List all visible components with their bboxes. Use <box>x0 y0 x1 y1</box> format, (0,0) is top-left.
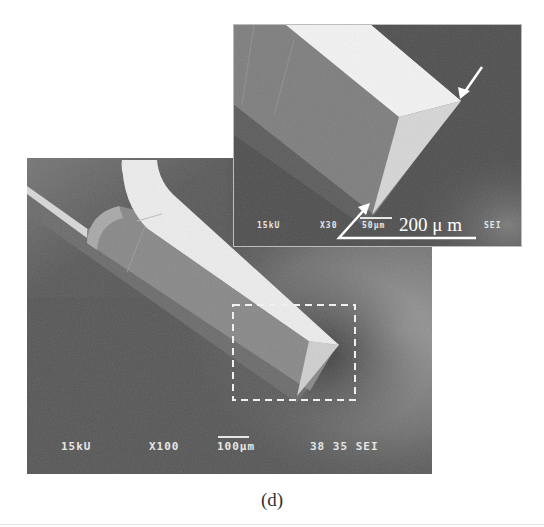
inset-magnification-label: X30 <box>320 221 337 230</box>
scale-annotation: 200 μ m <box>399 214 462 236</box>
main-magnification-label: X100 <box>149 440 180 453</box>
inset-sem-image: 15kU X30 50μm SEI 200 μ m <box>233 24 522 247</box>
inset-mode-label: SEI <box>484 221 501 230</box>
main-id-label: 38 35 SEI <box>310 440 379 453</box>
main-voltage-label: 15kU <box>61 440 92 453</box>
inset-voltage-label: 15kU <box>257 221 280 230</box>
main-scale-label: 100μm <box>217 440 255 453</box>
inset-scale-label: 50μm <box>362 221 385 230</box>
bottom-divider <box>0 524 544 525</box>
figure-caption: (d) <box>0 489 544 511</box>
inset-sem-graphic <box>234 25 522 247</box>
